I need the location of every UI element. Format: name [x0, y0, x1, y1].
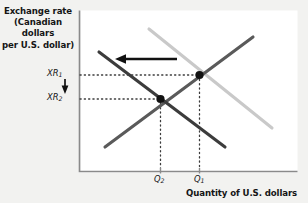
plot-area-background: [79, 11, 298, 173]
exchange-rate-fall-arrow: [62, 79, 69, 94]
exchange-rate-supply-demand-figure: Exchange rate (Canadian dollars per U.S.…: [0, 0, 308, 203]
equilibrium1-point: [195, 71, 203, 79]
equilibrium2-point: [156, 95, 164, 103]
plot-canvas: [0, 0, 308, 203]
exchange-rate-fall-arrow-head: [62, 86, 69, 95]
